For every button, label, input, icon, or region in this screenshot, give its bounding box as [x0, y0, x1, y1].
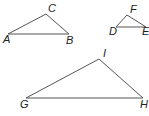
- triangle-ghi: [26, 59, 143, 98]
- triangles-diagram: A B C D E F G H I: [0, 0, 149, 116]
- vertex-label-a: A: [2, 33, 10, 45]
- vertex-label-b: B: [66, 34, 73, 46]
- vertex-label-h: H: [140, 98, 148, 110]
- triangle-abc: [8, 14, 69, 34]
- vertex-label-i: I: [103, 47, 106, 59]
- vertex-label-e: E: [142, 25, 149, 37]
- vertex-label-g: G: [20, 98, 29, 110]
- vertex-label-f: F: [130, 3, 138, 15]
- vertex-label-d: D: [109, 25, 117, 37]
- vertex-label-c: C: [48, 2, 56, 14]
